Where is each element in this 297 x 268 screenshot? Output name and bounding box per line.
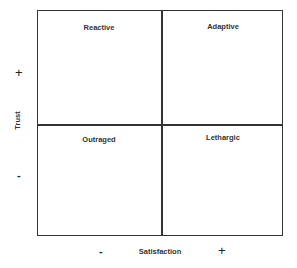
quadrant-label-reactive: Reactive xyxy=(38,23,160,32)
y-axis-plus-sign: + xyxy=(15,66,23,79)
quadrant-label-lethargic: Lethargic xyxy=(162,133,284,142)
y-axis-minus-sign: - xyxy=(17,170,21,181)
x-axis-minus-sign: - xyxy=(99,246,103,257)
quadrant-label-outraged: Outraged xyxy=(38,135,160,144)
matrix-grid: Reactive Adaptive Outraged Lethargic xyxy=(37,10,283,236)
vertical-divider xyxy=(161,11,163,235)
x-axis-plus-sign: + xyxy=(218,244,226,257)
quadrant-label-adaptive: Adaptive xyxy=(162,22,284,31)
horizontal-divider xyxy=(38,124,282,126)
x-axis-title: Satisfaction xyxy=(130,247,190,256)
y-axis-title: Trust xyxy=(13,106,22,136)
